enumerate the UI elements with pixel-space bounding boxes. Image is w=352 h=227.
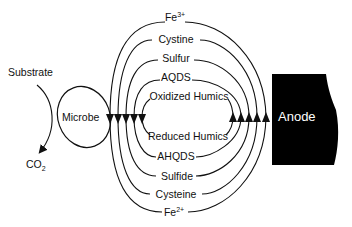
shuttle-label-ahqds: AHQDS xyxy=(157,150,194,162)
anode-label: Anode xyxy=(278,109,316,124)
shuttle-label-oxidized-humics: Oxidized Humics xyxy=(150,90,229,102)
shuttle-label-reduced-humics: Reduced Humics xyxy=(148,130,228,142)
shuttle-label-fe2: Fe2+ xyxy=(164,206,184,218)
shuttle-label-aqds: AQDS xyxy=(161,71,191,83)
down-arrowheads xyxy=(106,114,146,124)
electron-shuttle-diagram: Substrate CO2 Microbe xyxy=(0,0,352,227)
shuttle-label-sulfur: Sulfur xyxy=(162,52,190,64)
shuttle-label-cystine: Cystine xyxy=(158,33,193,45)
microbe-label: Microbe xyxy=(62,111,100,123)
co2-label: CO2 xyxy=(26,158,46,172)
up-arrowheads xyxy=(229,112,270,122)
substrate-to-co2-arrow xyxy=(37,85,52,152)
substrate-label: Substrate xyxy=(8,66,53,78)
shuttle-label-fe3: Fe3+ xyxy=(165,11,185,23)
shuttle-label-cysteine: Cysteine xyxy=(156,188,197,200)
shuttle-label-sulfide: Sulfide xyxy=(161,170,193,182)
